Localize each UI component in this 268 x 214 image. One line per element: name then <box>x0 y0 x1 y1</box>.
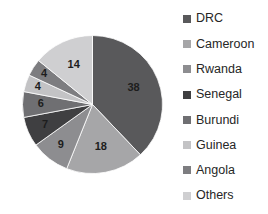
legend-item-label: DRC <box>196 12 223 25</box>
legend-item-label: Senegal <box>196 88 242 101</box>
pie-slice-value-label: 4 <box>35 80 42 92</box>
legend-item[interactable]: Rwanda <box>183 57 268 82</box>
pie-slice-value-label: 4 <box>41 67 48 79</box>
legend-swatch-icon <box>183 166 191 174</box>
legend-item[interactable]: DRC <box>183 6 268 31</box>
legend-swatch-icon <box>183 91 191 99</box>
legend-item[interactable]: Others <box>183 183 268 208</box>
legend-swatch-icon <box>183 40 191 48</box>
legend-swatch-icon <box>183 192 191 200</box>
legend-item-label: Cameroon <box>196 38 254 51</box>
legend-swatch-icon <box>183 141 191 149</box>
legend-swatch-icon <box>183 65 191 73</box>
legend-item-label: Angola <box>196 164 235 177</box>
legend-item[interactable]: Cameroon <box>183 31 268 56</box>
pie-slice-value-label: 14 <box>68 58 81 70</box>
legend-item-label: Burundi <box>196 114 239 127</box>
legend-swatch-icon <box>183 15 191 23</box>
legend-item[interactable]: Guinea <box>183 132 268 157</box>
legend-item[interactable]: Angola <box>183 158 268 183</box>
pie-slice-value-label: 18 <box>95 140 107 152</box>
legend: DRCCameroonRwandaSenegalBurundiGuineaAng… <box>183 6 268 210</box>
pie-slice-value-label: 38 <box>127 81 139 93</box>
pie-chart-svg: 38189764414 <box>22 35 163 174</box>
pie-chart-figure: 38189764414 DRCCameroonRwandaSenegalBuru… <box>0 0 268 214</box>
legend-item-label: Guinea <box>196 139 236 152</box>
legend-item[interactable]: Burundi <box>183 107 268 132</box>
pie-slice-value-label: 6 <box>38 97 44 109</box>
legend-swatch-icon <box>183 116 191 124</box>
pie-chart-plot-area: 38189764414 <box>22 35 163 174</box>
legend-item-label: Rwanda <box>196 63 242 76</box>
legend-item-label: Others <box>196 189 234 202</box>
pie-slice-value-label: 7 <box>42 118 48 130</box>
legend-item[interactable]: Senegal <box>183 82 268 107</box>
pie-slice-value-label: 9 <box>58 138 64 150</box>
